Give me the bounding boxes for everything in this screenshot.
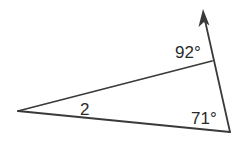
label-angle-2: 2 — [80, 100, 89, 119]
arrowhead-icon — [199, 9, 210, 27]
label-exterior-angle-92: 92° — [175, 43, 201, 62]
triangle-diagram: 92° 71° 2 — [0, 0, 252, 148]
label-angle-71: 71° — [191, 109, 217, 128]
side-left-to-top-right — [18, 61, 212, 111]
